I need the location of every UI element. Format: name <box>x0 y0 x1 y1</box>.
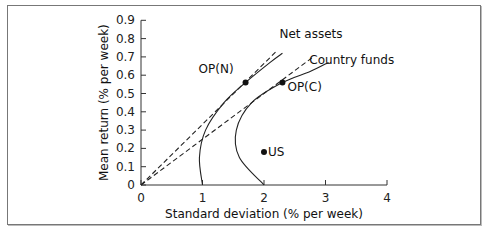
data-point <box>261 149 267 155</box>
x-tick-label: 1 <box>199 191 207 205</box>
data-point <box>279 80 285 86</box>
data-point <box>243 80 249 86</box>
annotation-label: US <box>268 145 284 159</box>
y-tick-label: 0.9 <box>116 13 135 27</box>
annotation-label: Net assets <box>279 27 342 41</box>
x-tick-label: 4 <box>383 191 391 205</box>
y-tick-label: 0 <box>127 178 135 192</box>
y-tick-label: 0.5 <box>116 87 135 101</box>
y-tick-label: 0.6 <box>116 68 135 82</box>
annotation-label: OP(N) <box>199 62 234 76</box>
annotation-label: Country funds <box>309 53 394 67</box>
y-tick-label: 0.2 <box>116 141 135 155</box>
annotation-label: OP(C) <box>287 80 321 94</box>
x-tick-label: 2 <box>260 191 268 205</box>
y-tick-label: 0.8 <box>116 32 135 46</box>
chart: 0123400.10.20.30.40.50.60.70.80.9Standar… <box>0 0 485 231</box>
tangent-line <box>141 57 313 185</box>
y-tick-label: 0.7 <box>116 50 135 64</box>
x-axis-label: Standard deviation (% per week) <box>165 207 363 221</box>
x-tick-label: 0 <box>137 191 145 205</box>
y-tick-label: 0.4 <box>116 105 135 119</box>
x-tick-label: 3 <box>322 191 330 205</box>
y-axis-label: Mean return (% per week) <box>97 24 111 181</box>
y-tick-label: 0.3 <box>116 123 135 137</box>
y-tick-label: 0.1 <box>116 160 135 174</box>
